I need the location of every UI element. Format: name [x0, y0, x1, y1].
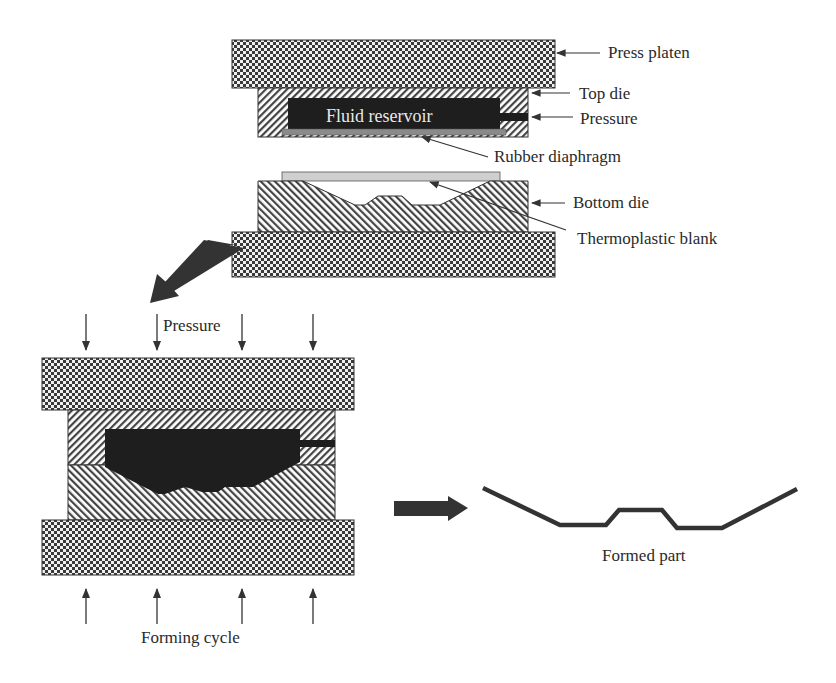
label-pressure-top: Pressure — [580, 110, 638, 127]
right-arrow-icon — [394, 496, 468, 521]
lower-top-press-platen — [42, 358, 354, 410]
formed-part-profile — [483, 488, 797, 528]
thermoplastic-blank — [282, 172, 500, 181]
label-formed-part: Formed part — [602, 547, 686, 564]
label-rubber-diaphragm: Rubber diaphragm — [494, 148, 621, 165]
thermoforming-diagram — [0, 0, 836, 683]
label-pressure-bottom: Pressure — [163, 317, 221, 334]
bottom-press-platen — [232, 232, 555, 277]
diagonal-arrow-icon — [150, 240, 244, 303]
label-forming-cycle: Forming cycle — [141, 629, 240, 646]
rubber-diaphragm — [282, 129, 506, 135]
label-press-platen: Press platen — [608, 44, 690, 61]
pressure-channel — [500, 113, 528, 121]
bottom-die — [258, 181, 528, 232]
top-press-platen — [232, 40, 555, 88]
label-thermoplastic-blank: Thermoplastic blank — [577, 230, 717, 247]
label-bottom-die: Bottom die — [573, 194, 649, 211]
label-top-die: Top die — [579, 85, 630, 102]
label-fluid-reservoir: Fluid reservoir — [326, 107, 432, 125]
bottom-assembly — [42, 314, 354, 624]
lower-bottom-press-platen — [42, 520, 354, 575]
leader-rubber-diaphragm — [422, 137, 488, 157]
